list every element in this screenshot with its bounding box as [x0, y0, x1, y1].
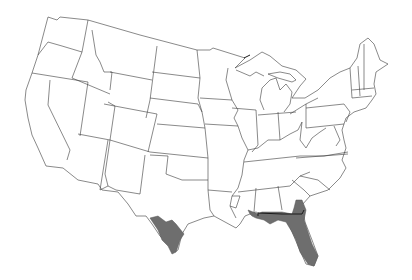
lake-superior-shore [244, 55, 250, 58]
map-svg [0, 0, 412, 280]
us-range-map [0, 0, 412, 280]
